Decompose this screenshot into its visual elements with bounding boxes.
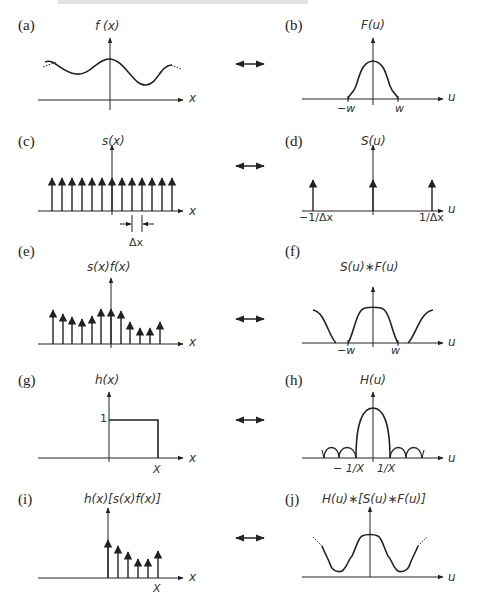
plot-i bbox=[38, 508, 183, 578]
plot-g bbox=[38, 392, 183, 462]
plot-c bbox=[38, 145, 183, 232]
plot-b bbox=[302, 38, 443, 105]
plot-j bbox=[302, 507, 443, 577]
plot-h bbox=[302, 392, 443, 462]
fourier-pair-arrows bbox=[236, 64, 264, 538]
plot-a bbox=[38, 38, 183, 110]
plot-e bbox=[38, 278, 183, 348]
plot-d bbox=[302, 145, 443, 215]
plot-f bbox=[302, 287, 443, 347]
diagram-canvas bbox=[0, 0, 480, 603]
